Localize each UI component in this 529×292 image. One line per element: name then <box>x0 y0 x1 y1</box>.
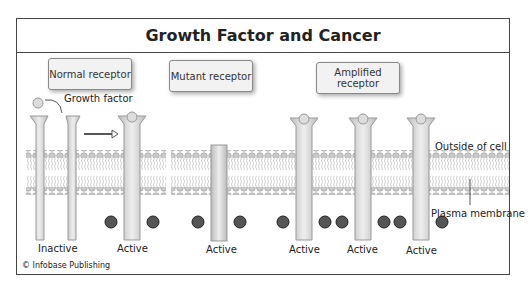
normal-receptor-box: Normal receptor <box>48 58 132 90</box>
plasma-membrane <box>26 150 509 195</box>
outside-of-cell-label: Outside of cell <box>435 141 507 152</box>
state-label: Active <box>406 245 437 256</box>
growth-factor-label: Growth factor <box>64 93 133 104</box>
state-label: Active <box>347 244 378 255</box>
state-label: Active <box>206 244 237 255</box>
mutant-receptor <box>211 145 227 241</box>
plasma-membrane-label: Plasma membrane <box>431 208 525 219</box>
state-label: Inactive <box>38 243 78 254</box>
amplified-receptor-box: Amplified receptor <box>316 62 400 94</box>
mutant-receptor-box: Mutant receptor <box>169 60 253 92</box>
amplified-receptors <box>290 114 435 240</box>
state-label: Active <box>289 244 320 255</box>
phosphate-groups <box>105 216 448 228</box>
copyright-label: © Infobase Publishing <box>22 261 110 270</box>
state-label: Active <box>117 243 148 254</box>
